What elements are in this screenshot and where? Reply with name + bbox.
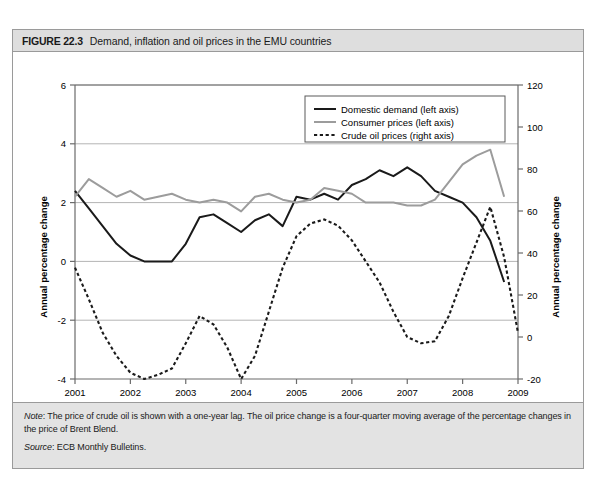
chart-svg: -4-20246-2002040608010012020012002200320… xyxy=(13,52,583,404)
y-tick-label-right: 40 xyxy=(527,248,538,259)
legend-label: Consumer prices (left axis) xyxy=(341,117,454,128)
y-tick-label-left: 2 xyxy=(61,197,66,208)
y-tick-label-left: 4 xyxy=(61,138,66,149)
source-lead: Source xyxy=(24,442,52,452)
y-tick-label-right: -20 xyxy=(527,374,541,385)
figure-note-block: Note: The price of crude oil is shown wi… xyxy=(13,402,583,468)
figure-header: FIGURE 22.3 Demand, inflation and oil pr… xyxy=(13,30,583,52)
x-tick-label: 2007 xyxy=(397,387,418,398)
x-tick-label: 2001 xyxy=(64,387,85,398)
series-line xyxy=(75,167,504,282)
chart-plot-area: -4-20246-2002040608010012020012002200320… xyxy=(13,52,583,404)
chart-legend: Domestic demand (left axis)Consumer pric… xyxy=(305,96,505,142)
x-tick-label: 2003 xyxy=(175,387,196,398)
x-tick-label: 2008 xyxy=(452,387,473,398)
data-series xyxy=(75,150,518,379)
y-tick-label-left: 6 xyxy=(61,80,66,91)
note-lead: Note xyxy=(24,411,43,421)
x-tick-label: 2005 xyxy=(286,387,307,398)
y-axis-label-right: Annual percentage change xyxy=(550,196,561,317)
y-tick-label-right: 120 xyxy=(527,80,543,91)
x-tick-label: 2009 xyxy=(507,387,528,398)
y-tick-label-right: 100 xyxy=(527,122,543,133)
figure-number: FIGURE 22.3 xyxy=(22,35,83,47)
y-tick-label-left: 0 xyxy=(61,256,66,267)
source-body: : ECB Monthly Bulletins. xyxy=(52,442,146,452)
figure-container: FIGURE 22.3 Demand, inflation and oil pr… xyxy=(12,29,584,469)
y-tick-label-right: 20 xyxy=(527,290,538,301)
y-tick-label-right: 60 xyxy=(527,206,538,217)
x-tick-label: 2002 xyxy=(120,387,141,398)
y-tick-label-right: 80 xyxy=(527,164,538,175)
legend-label: Domestic demand (left axis) xyxy=(341,104,459,115)
y-tick-label-left: -4 xyxy=(58,374,66,385)
figure-title: Demand, inflation and oil prices in the … xyxy=(90,35,332,47)
y-tick-label-left: -2 xyxy=(58,315,66,326)
note-text: Note: The price of crude oil is shown wi… xyxy=(24,410,572,435)
note-body: : The price of crude oil is shown with a… xyxy=(24,411,571,434)
y-tick-label-right: 0 xyxy=(527,332,532,343)
y-axis-label-left: Annual percentage change xyxy=(38,196,49,317)
x-tick-label: 2006 xyxy=(341,387,362,398)
legend-label: Crude oil prices (right axis) xyxy=(341,130,454,141)
x-tick-label: 2004 xyxy=(231,387,252,398)
source-text: Source: ECB Monthly Bulletins. xyxy=(24,441,572,454)
series-line xyxy=(75,207,518,379)
